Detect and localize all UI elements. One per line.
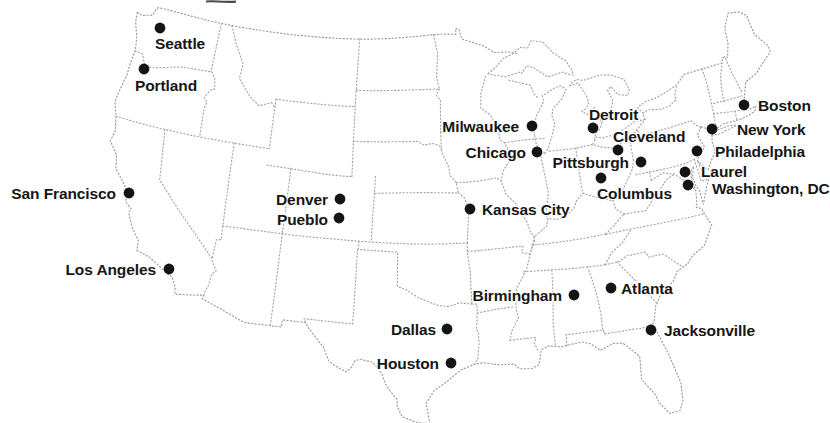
city-san-francisco: San Francisco bbox=[11, 185, 134, 202]
city-dot bbox=[442, 324, 453, 335]
city-boston: Boston bbox=[739, 97, 811, 114]
city-dot bbox=[636, 157, 647, 168]
border-line bbox=[721, 63, 724, 102]
city-label: Milwaukee bbox=[442, 118, 519, 135]
border-line bbox=[467, 237, 534, 254]
border-line bbox=[270, 234, 282, 326]
border-line bbox=[714, 96, 743, 104]
city-dot bbox=[334, 213, 345, 224]
border-line bbox=[735, 111, 737, 120]
city-cleveland: Cleveland bbox=[613, 128, 686, 156]
city-label: Seattle bbox=[155, 35, 206, 52]
border-line bbox=[550, 145, 593, 152]
border-line bbox=[534, 86, 566, 154]
city-label: Dallas bbox=[391, 321, 436, 338]
border-line bbox=[552, 270, 556, 346]
city-houston: Houston bbox=[377, 355, 457, 372]
city-label: Pittsburgh bbox=[553, 154, 630, 171]
border-line bbox=[200, 72, 215, 137]
city-dot bbox=[692, 146, 703, 157]
city-label: Kansas City bbox=[482, 201, 570, 218]
border-line bbox=[714, 110, 741, 113]
border-line bbox=[456, 178, 501, 183]
city-dot bbox=[596, 173, 607, 184]
us-map-svg: SeattlePortlandSan FranciscoLos AngelesD… bbox=[0, 0, 830, 423]
city-denver: Denver bbox=[276, 191, 345, 208]
border-line bbox=[605, 324, 653, 334]
border-line bbox=[532, 234, 606, 245]
border-line bbox=[566, 330, 605, 346]
us-cities-map: SeattlePortlandSan FranciscoLos AngelesD… bbox=[0, 0, 830, 423]
city-label: Columbus bbox=[597, 185, 672, 202]
city-label: Los Angeles bbox=[66, 261, 157, 278]
border-line bbox=[605, 229, 631, 265]
border-line bbox=[375, 176, 459, 193]
city-dot bbox=[569, 290, 580, 301]
city-dot bbox=[465, 204, 476, 215]
city-dot bbox=[707, 124, 718, 135]
city-washington-dc: Washington, DC bbox=[683, 180, 830, 197]
city-label: Portland bbox=[135, 77, 197, 94]
city-kansas-city: Kansas City bbox=[465, 201, 571, 218]
city-dot bbox=[739, 100, 750, 111]
border-line bbox=[371, 193, 374, 242]
city-seattle: Seattle bbox=[155, 23, 206, 52]
city-label: Washington, DC bbox=[712, 180, 830, 197]
city-label: Houston bbox=[377, 355, 439, 372]
city-atlanta: Atlanta bbox=[606, 280, 674, 297]
city-dot bbox=[139, 64, 150, 75]
city-dot bbox=[124, 188, 135, 199]
border-line bbox=[643, 113, 645, 119]
city-dot bbox=[683, 180, 694, 191]
city-label: Atlanta bbox=[621, 280, 673, 297]
city-label: New York bbox=[737, 121, 806, 138]
border-line bbox=[588, 267, 605, 334]
city-dot bbox=[532, 147, 543, 158]
border-line bbox=[638, 85, 677, 113]
city-dot bbox=[680, 167, 691, 178]
city-dot bbox=[164, 264, 175, 275]
border-line bbox=[488, 41, 573, 78]
border-line bbox=[358, 241, 472, 306]
city-laurel: Laurel bbox=[680, 163, 747, 180]
national-outline bbox=[110, 12, 770, 423]
border-line bbox=[223, 226, 467, 244]
city-birmingham: Birmingham bbox=[473, 287, 580, 304]
border-line bbox=[304, 249, 358, 324]
border-line bbox=[352, 39, 360, 177]
city-dot bbox=[646, 325, 657, 336]
border-line bbox=[505, 138, 546, 142]
city-markers: SeattlePortlandSan FranciscoLos AngelesD… bbox=[11, 23, 829, 372]
city-pueblo: Pueblo bbox=[277, 211, 344, 228]
border-line bbox=[613, 201, 624, 214]
border-line bbox=[467, 243, 472, 304]
city-dot bbox=[588, 123, 599, 134]
border-line bbox=[436, 89, 458, 193]
border-line bbox=[232, 26, 275, 108]
city-jacksonville: Jacksonville bbox=[646, 322, 756, 339]
border-line bbox=[269, 99, 276, 149]
border-line bbox=[116, 116, 269, 149]
city-label: Denver bbox=[276, 191, 328, 208]
border-line bbox=[702, 69, 716, 128]
city-milwaukee: Milwaukee bbox=[442, 118, 537, 135]
scan-artifact bbox=[206, 1, 236, 2]
border-line bbox=[510, 338, 538, 351]
border-line bbox=[605, 252, 681, 266]
city-columbus: Columbus bbox=[596, 173, 672, 202]
border-line bbox=[524, 265, 606, 272]
city-label: Laurel bbox=[701, 163, 747, 180]
border-line bbox=[211, 23, 221, 71]
border-line bbox=[606, 214, 705, 234]
border-line bbox=[356, 89, 439, 91]
border-line bbox=[649, 172, 651, 180]
city-dallas: Dallas bbox=[391, 321, 452, 338]
city-chicago: Chicago bbox=[466, 144, 543, 161]
city-label: Birmingham bbox=[473, 287, 562, 304]
border-line bbox=[433, 35, 439, 89]
city-philadelphia: Philadelphia bbox=[692, 143, 806, 160]
city-label: Chicago bbox=[466, 144, 526, 161]
border-line bbox=[353, 141, 441, 149]
city-label: Jacksonville bbox=[664, 322, 755, 339]
city-dot bbox=[446, 358, 457, 369]
